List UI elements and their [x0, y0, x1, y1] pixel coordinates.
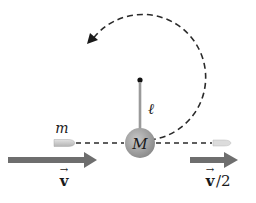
pendulum-rod	[139, 82, 142, 130]
outgoing-bullet	[213, 140, 231, 146]
block-mass-label: M	[131, 135, 148, 153]
ballistic-pendulum-diagram: ℓ M m → v → v /2	[0, 0, 256, 203]
velocity-half-suffix: /2	[216, 172, 231, 190]
rod-length-label: ℓ	[148, 100, 154, 118]
swing-path	[87, 14, 206, 140]
initial-velocity-label: → v	[59, 164, 70, 190]
velocity-v-final-text: v	[205, 172, 216, 190]
velocity-v-text: v	[59, 172, 70, 190]
bullet-mass-label: m	[55, 120, 68, 136]
incoming-bullet	[54, 140, 75, 147]
final-velocity-label: → v /2	[205, 164, 231, 190]
initial-velocity-arrow	[8, 152, 97, 168]
pivot-point	[137, 77, 142, 82]
